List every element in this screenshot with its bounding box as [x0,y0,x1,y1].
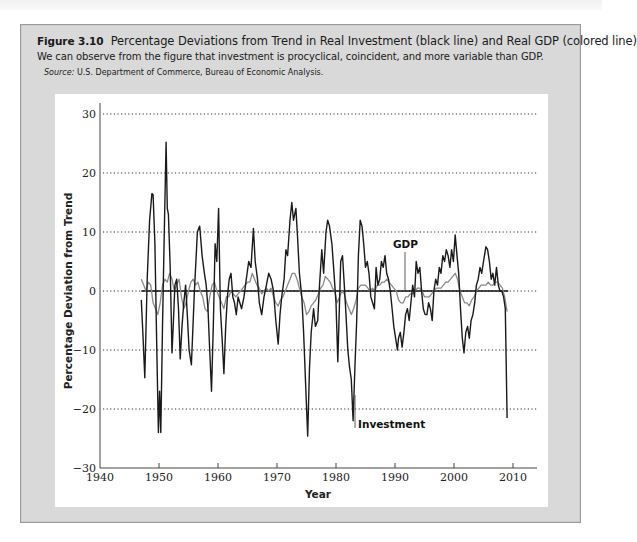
x-tick-label: 2010 [499,471,527,484]
y-tick-label: 0 [89,285,96,298]
gridlines [103,114,537,409]
gdp-line [141,273,507,314]
x-tick-label: 1990 [381,471,409,484]
y-axis-title: Percentage Deviation from Trend [62,193,74,389]
x-tick-label: 1960 [204,471,232,484]
x-tick-label: 1940 [86,471,114,484]
x-tick-label: 2000 [440,471,468,484]
x-axis-title: Year [304,488,332,500]
investment-annotation: Investment [358,418,425,430]
y-tick-label: 30 [82,108,96,121]
x-tick-label: 1950 [145,471,173,484]
y-tick-label: 10 [82,226,96,239]
y-tick-label: 20 [82,167,96,180]
x-tick-labels: 19401950196019701980199020002010 [86,471,527,484]
y-tick-labels: −30−20−100102030 [73,108,96,475]
gdp-annotation: GDP [393,238,418,250]
x-tick-label: 1970 [263,471,291,484]
y-tick-label: −10 [73,344,96,357]
x-tick-label: 1980 [322,471,350,484]
investment-line [141,142,507,436]
y-tick-label: −20 [73,403,96,416]
